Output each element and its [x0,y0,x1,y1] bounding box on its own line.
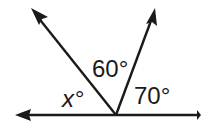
angle-60-label: 60° [92,57,128,81]
left-ray-arrowhead-icon [31,8,48,25]
left-arrowhead-icon [15,109,31,121]
right-arrowhead-icon [197,110,201,120]
right-ray-arrowhead-icon [146,8,157,26]
angle-diagram: x° 60° 70° [0,0,201,133]
angle-x-label: x° [62,87,84,111]
angle-70-label: 70° [134,84,170,108]
